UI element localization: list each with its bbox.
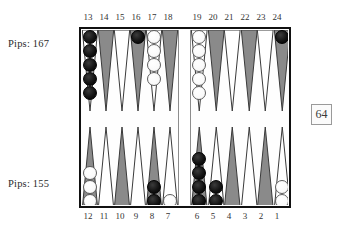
checker-black[interactable] [275, 30, 288, 44]
point-9[interactable] [130, 119, 146, 205]
checker-black[interactable] [83, 58, 97, 72]
checker-black[interactable] [192, 152, 206, 166]
checker-white[interactable] [275, 180, 288, 194]
checker-black[interactable] [83, 72, 97, 86]
point-20[interactable] [208, 30, 225, 118]
checker-white[interactable] [163, 194, 177, 205]
point-triangle [98, 30, 114, 111]
point-triangle [224, 30, 241, 111]
point-24[interactable] [274, 30, 289, 118]
checker-white[interactable] [83, 180, 97, 194]
point-triangle [208, 30, 225, 111]
checker-white[interactable] [192, 58, 206, 72]
checker-black[interactable] [83, 44, 97, 58]
checker-stack-5[interactable] [208, 180, 225, 205]
checker-white[interactable] [192, 72, 206, 86]
point-number-6: 6 [189, 210, 205, 223]
point-number-17: 17 [144, 11, 160, 24]
point-11[interactable] [98, 119, 114, 205]
checker-white[interactable] [147, 72, 161, 86]
checker-stack-17[interactable] [146, 30, 162, 86]
checker-stack-24[interactable] [274, 30, 289, 44]
point-12[interactable] [82, 119, 98, 205]
point-numbers-bottom: 121110987654321 [80, 210, 290, 223]
checker-black[interactable] [209, 194, 223, 205]
point-number-24: 24 [269, 11, 285, 24]
board-bar[interactable] [178, 30, 191, 205]
game-board [79, 27, 291, 208]
point-1[interactable] [274, 119, 289, 205]
point-triangle [114, 30, 130, 111]
checker-black[interactable] [147, 194, 161, 205]
checker-black[interactable] [83, 86, 97, 100]
point-number-10: 10 [112, 210, 128, 223]
checker-black[interactable] [192, 166, 206, 180]
checker-white[interactable] [147, 58, 161, 72]
doubling-cube[interactable]: 64 [311, 104, 332, 125]
point-10[interactable] [114, 119, 130, 205]
checker-white[interactable] [83, 166, 97, 180]
point-17[interactable] [146, 30, 162, 118]
point-15[interactable] [114, 30, 130, 118]
checker-stack-8[interactable] [146, 180, 162, 205]
checker-black[interactable] [147, 180, 161, 194]
point-23[interactable] [257, 30, 274, 118]
point-numbers-top: 131415161718192021222324 [80, 11, 290, 24]
point-14[interactable] [98, 30, 114, 118]
checker-white[interactable] [192, 30, 206, 44]
checker-black[interactable] [192, 194, 206, 205]
point-number-22: 22 [237, 11, 253, 24]
checker-white[interactable] [192, 44, 206, 58]
point-number-21: 21 [221, 11, 237, 24]
point-2[interactable] [257, 119, 274, 205]
checker-white[interactable] [83, 194, 97, 205]
checker-white[interactable] [275, 194, 288, 205]
point-triangle [241, 30, 258, 111]
quadrant-top-right [191, 30, 288, 118]
point-number-13: 13 [80, 11, 96, 24]
point-22[interactable] [241, 30, 258, 118]
checker-black[interactable] [83, 30, 97, 44]
checker-stack-19[interactable] [191, 30, 208, 100]
checker-stack-6[interactable] [191, 152, 208, 205]
quadrant-bottom-left [82, 119, 178, 205]
checker-black[interactable] [192, 180, 206, 194]
point-6[interactable] [191, 119, 208, 205]
quadrant-bottom-right [191, 119, 288, 205]
point-number-16: 16 [128, 11, 144, 24]
point-triangle [257, 127, 274, 205]
point-number-2: 2 [253, 210, 269, 223]
point-number-12: 12 [80, 210, 96, 223]
point-18[interactable] [162, 30, 178, 118]
checker-white[interactable] [192, 86, 206, 100]
checker-black[interactable] [209, 180, 223, 194]
point-number-15: 15 [112, 11, 128, 24]
point-number-9: 9 [128, 210, 144, 223]
point-number-18: 18 [160, 11, 176, 24]
point-triangle [130, 127, 146, 205]
point-13[interactable] [82, 30, 98, 118]
point-triangle [114, 127, 130, 205]
checker-white[interactable] [147, 44, 161, 58]
checker-stack-7[interactable] [162, 194, 178, 205]
point-number-14: 14 [96, 11, 112, 24]
checker-white[interactable] [147, 30, 161, 44]
checker-black[interactable] [131, 30, 145, 44]
point-3[interactable] [241, 119, 258, 205]
point-16[interactable] [130, 30, 146, 118]
point-19[interactable] [191, 30, 208, 118]
point-21[interactable] [224, 30, 241, 118]
quadrant-top-left [82, 30, 178, 118]
point-7[interactable] [162, 119, 178, 205]
point-number-4: 4 [221, 210, 237, 223]
checker-stack-13[interactable] [82, 30, 98, 100]
point-8[interactable] [146, 119, 162, 205]
point-number-7: 7 [160, 210, 176, 223]
checker-stack-16[interactable] [130, 30, 146, 44]
point-number-19: 19 [189, 11, 205, 24]
point-4[interactable] [224, 119, 241, 205]
checker-stack-12[interactable] [82, 166, 98, 205]
point-number-11: 11 [96, 210, 112, 223]
point-5[interactable] [208, 119, 225, 205]
checker-stack-1[interactable] [274, 180, 289, 205]
